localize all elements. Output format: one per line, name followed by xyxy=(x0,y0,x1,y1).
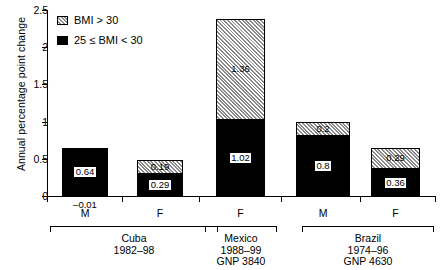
bracket-cap-left xyxy=(50,226,51,232)
bracket-line xyxy=(50,226,218,227)
y-tick-mark-1 xyxy=(42,122,48,123)
bar-value-label-dark: 1.02 xyxy=(229,152,253,164)
y-tick-1_5: 1.5 xyxy=(0,84,48,85)
bar-brazil-female: 0.29 0.36 xyxy=(371,148,420,196)
group-label-brazil: Brazil 1974–96 GNP 4630 xyxy=(302,233,434,268)
x-tick-mark-1 xyxy=(122,197,123,202)
bar-value-label-hatch: 0.19 xyxy=(151,162,170,172)
bracket-line xyxy=(205,226,277,227)
y-tick-2_5: 2.5 xyxy=(0,10,48,11)
y-tick-1: 1 xyxy=(0,122,48,123)
bar-value-label-hatch: 0.29 xyxy=(386,153,405,163)
bar-segment-hatch: 0.19 xyxy=(137,160,183,174)
x-label-cuba-female: F xyxy=(137,207,183,219)
group-gnp-mexico: GNP 3840 xyxy=(205,256,277,268)
bracket-line xyxy=(302,226,434,227)
y-tick-0_5: 0.5 xyxy=(0,159,48,160)
bar-segment-dark: 0.29 xyxy=(137,174,183,196)
bracket-cap-right xyxy=(433,226,434,232)
x-label-cuba-male: M xyxy=(62,207,108,219)
group-country-cuba: Cuba xyxy=(50,233,218,245)
bar-brazil-male: 0.2 0.8 xyxy=(296,122,350,196)
y-axis-line xyxy=(47,10,48,197)
bar-segment-hatch: 1.36 xyxy=(216,19,265,120)
bar-segment-hatch: 0.29 xyxy=(371,148,420,170)
group-period-cuba: 1982–98 xyxy=(50,245,218,257)
bar-segment-hatch: 0.2 xyxy=(296,122,350,137)
legend-item-bmi-over-30: BMI > 30 xyxy=(57,12,143,28)
bar-mexico-female: 1.36 1.02 xyxy=(216,19,265,196)
x-tick-mark-4 xyxy=(360,197,361,202)
group-country-mexico: Mexico xyxy=(205,233,277,245)
chart-container: Annual percentage point change 2.5 2 1.5… xyxy=(0,0,441,270)
y-tick-0: 0 xyxy=(0,196,48,197)
bar-value-label-hatch: 0.2 xyxy=(316,124,329,134)
bar-segment-dark: 1.02 xyxy=(216,120,265,196)
x-label-brazil-male: M xyxy=(296,207,350,219)
bar-segment-dark: 0.64 xyxy=(62,148,108,196)
legend-label-bmi-25-30: 25 ≤ BMI < 30 xyxy=(74,34,143,46)
bar-segment-dark: 0.36 xyxy=(371,169,420,196)
group-country-brazil: Brazil xyxy=(302,233,434,245)
y-tick-mark-2 xyxy=(42,47,48,48)
legend-item-bmi-25-30: 25 ≤ BMI < 30 xyxy=(57,32,143,48)
hatch-swatch-icon xyxy=(57,16,68,25)
y-tick-mark-2_5 xyxy=(42,10,48,11)
x-tick-mark-0 xyxy=(47,197,48,202)
bracket-cap-right xyxy=(276,226,277,232)
bar-segment-dark: 0.8 xyxy=(296,136,350,196)
legend-label-bmi-over-30: BMI > 30 xyxy=(74,14,118,26)
group-label-mexico: Mexico 1988–99 GNP 3840 xyxy=(205,233,277,268)
bar-value-label-dark: 0.29 xyxy=(148,179,172,191)
x-tick-mark-3 xyxy=(281,197,282,202)
x-tick-mark-2 xyxy=(199,197,200,202)
bracket-cap-left xyxy=(302,226,303,232)
x-tick-mark-5 xyxy=(435,197,436,202)
bar-value-label-dark: 0.64 xyxy=(73,166,97,178)
bracket-cap-left xyxy=(205,226,206,232)
bar-cuba-male: 0.64 xyxy=(62,148,108,196)
y-tick-mark-0_5 xyxy=(42,159,48,160)
x-label-mexico-female: F xyxy=(216,207,265,219)
bar-cuba-female: 0.19 0.29 xyxy=(137,160,183,196)
bar-value-label-dark: 0.8 xyxy=(314,160,332,172)
y-axis-title: Annual percentage point change xyxy=(15,0,27,194)
x-axis-line xyxy=(47,196,436,197)
y-tick-mark-1_5 xyxy=(42,84,48,85)
group-label-cuba: Cuba 1982–98 xyxy=(50,233,218,256)
x-label-brazil-female: F xyxy=(371,207,420,219)
y-tick-2: 2 xyxy=(0,47,48,48)
group-gnp-brazil: GNP 4630 xyxy=(302,256,434,268)
bar-value-label-hatch: 1.36 xyxy=(231,64,250,74)
black-swatch-icon xyxy=(57,36,68,45)
legend: BMI > 30 25 ≤ BMI < 30 xyxy=(57,12,143,52)
bar-value-label-dark: 0.36 xyxy=(384,177,408,189)
